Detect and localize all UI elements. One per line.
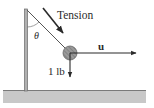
tension-label: Tension (57, 9, 93, 21)
tetherball-diagram: Tension θ u 1 lb (0, 0, 154, 108)
weight-label: 1 lb (48, 65, 65, 77)
ground (3, 90, 146, 103)
theta-label: θ (34, 30, 39, 41)
pole (25, 9, 28, 91)
theta-arc (27, 22, 39, 27)
u-label: u (98, 40, 104, 52)
